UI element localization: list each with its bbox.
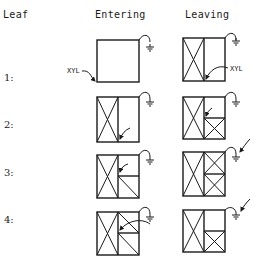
row3-entering (97, 150, 154, 198)
row4-entering (97, 207, 154, 255)
leaf-diagram: XYL XYL (0, 0, 256, 261)
xyl-label-leaving: XYL (230, 65, 243, 73)
row4-leaving (183, 199, 250, 252)
row2-leaving (183, 92, 240, 139)
arrow-icon (82, 71, 95, 81)
row3-leaving (183, 139, 250, 196)
row1-entering: XYL (67, 35, 154, 82)
arrow-icon (241, 199, 250, 211)
ground-lead (139, 35, 150, 42)
row1-leaving: XYL (183, 33, 243, 81)
arrow-icon (120, 164, 128, 172)
ground-icon (146, 99, 154, 106)
row2-entering (97, 92, 154, 142)
ground-icon (232, 212, 240, 219)
ground-icon (232, 99, 240, 106)
arrow-icon (206, 108, 212, 116)
ground-icon (232, 38, 240, 45)
xyl-label-entering: XYL (67, 67, 80, 75)
arrow-icon (120, 128, 130, 139)
ground-icon (146, 44, 154, 51)
arrow-icon (240, 139, 250, 152)
ground-icon (146, 214, 154, 221)
ground-icon (232, 154, 240, 161)
ground-icon (146, 157, 154, 164)
